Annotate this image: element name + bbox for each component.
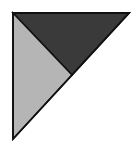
- triangle-diagram: [0, 0, 131, 149]
